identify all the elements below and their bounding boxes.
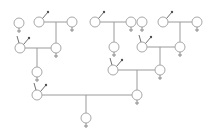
female-symbol-icon [109, 42, 119, 52]
female-symbol-icon [132, 90, 142, 100]
female-node [81, 113, 91, 128]
arrow-icon [99, 12, 105, 19]
female-symbol-icon [137, 17, 147, 27]
pedigree-diagram [0, 0, 214, 139]
arrow-icon [146, 37, 152, 44]
arrow-head-icon [45, 84, 47, 86]
male-node [90, 11, 105, 27]
person-nodes [14, 11, 202, 128]
female-node [126, 17, 136, 32]
female-symbol-icon [155, 65, 165, 75]
male-node [15, 36, 30, 53]
male-node [34, 11, 49, 27]
female-node [175, 42, 185, 57]
female-node [132, 90, 142, 105]
female-node [109, 42, 119, 57]
tick-icon [34, 83, 36, 90]
arrow-head-icon [28, 37, 30, 39]
female-symbol-icon [126, 17, 136, 27]
female-symbol-icon [192, 17, 202, 27]
arrow-head-icon [171, 11, 173, 13]
arrow-icon [43, 12, 49, 19]
arrow-head-icon [47, 11, 49, 13]
arrow-head-icon [103, 11, 105, 13]
tick-icon [139, 35, 141, 42]
female-symbol-icon [14, 18, 24, 28]
male-node [137, 35, 152, 52]
arrow-icon [167, 12, 173, 19]
female-node [192, 17, 202, 32]
female-symbol-icon [81, 113, 91, 123]
arrow-head-icon [121, 59, 123, 61]
female-node [14, 18, 24, 33]
female-symbol-icon [175, 42, 185, 52]
female-node [155, 65, 165, 80]
female-symbol-icon [51, 43, 61, 53]
male-node [108, 58, 123, 75]
arrow-icon [117, 60, 123, 67]
tick-icon [17, 36, 19, 43]
female-node [32, 67, 42, 82]
female-node [137, 17, 147, 32]
tick-icon [110, 58, 112, 65]
female-node [51, 43, 61, 58]
arrow-icon [24, 38, 30, 45]
female-symbol-icon [32, 67, 42, 77]
arrow-icon [41, 85, 47, 92]
arrow-head-icon [150, 36, 152, 38]
male-node [158, 11, 173, 27]
male-node [32, 83, 47, 100]
female-node [67, 17, 77, 32]
female-symbol-icon [67, 17, 77, 27]
